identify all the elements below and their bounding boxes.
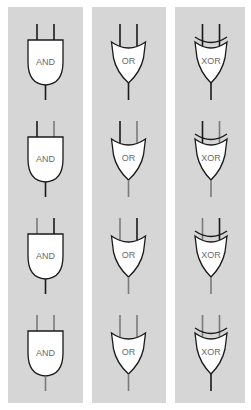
gate-label: OR	[122, 56, 136, 66]
and-gate: AND	[28, 218, 63, 294]
xor-gate: XOR	[195, 121, 227, 197]
xor-input-curve	[195, 134, 227, 140]
gate-label: OR	[122, 153, 136, 163]
or-gate: OR	[112, 24, 146, 100]
logic-gate-grid: ANDORXORANDORXORANDORXORANDORXOR	[0, 0, 251, 410]
and-gate: AND	[28, 24, 63, 100]
xor-gate: XOR	[195, 218, 227, 294]
xor-input-curve	[195, 37, 227, 43]
gate-label: AND	[36, 251, 56, 261]
gate-label: AND	[36, 57, 56, 67]
xor-gate: XOR	[195, 24, 227, 100]
gate-label: OR	[122, 250, 136, 260]
gate-label: AND	[36, 154, 56, 164]
xor-input-curve	[195, 328, 227, 334]
or-gate: OR	[112, 218, 146, 294]
and-gate: AND	[28, 121, 63, 197]
xor-input-curve	[195, 231, 227, 237]
gate-label: XOR	[201, 250, 221, 260]
or-gate: OR	[112, 121, 146, 197]
gate-label: XOR	[201, 153, 221, 163]
xor-gate: XOR	[195, 315, 227, 391]
gate-label: OR	[122, 347, 136, 357]
and-gate: AND	[28, 315, 63, 391]
gate-label: AND	[36, 348, 56, 358]
gate-label: XOR	[201, 347, 221, 357]
or-gate: OR	[112, 315, 146, 391]
gate-label: XOR	[201, 56, 221, 66]
